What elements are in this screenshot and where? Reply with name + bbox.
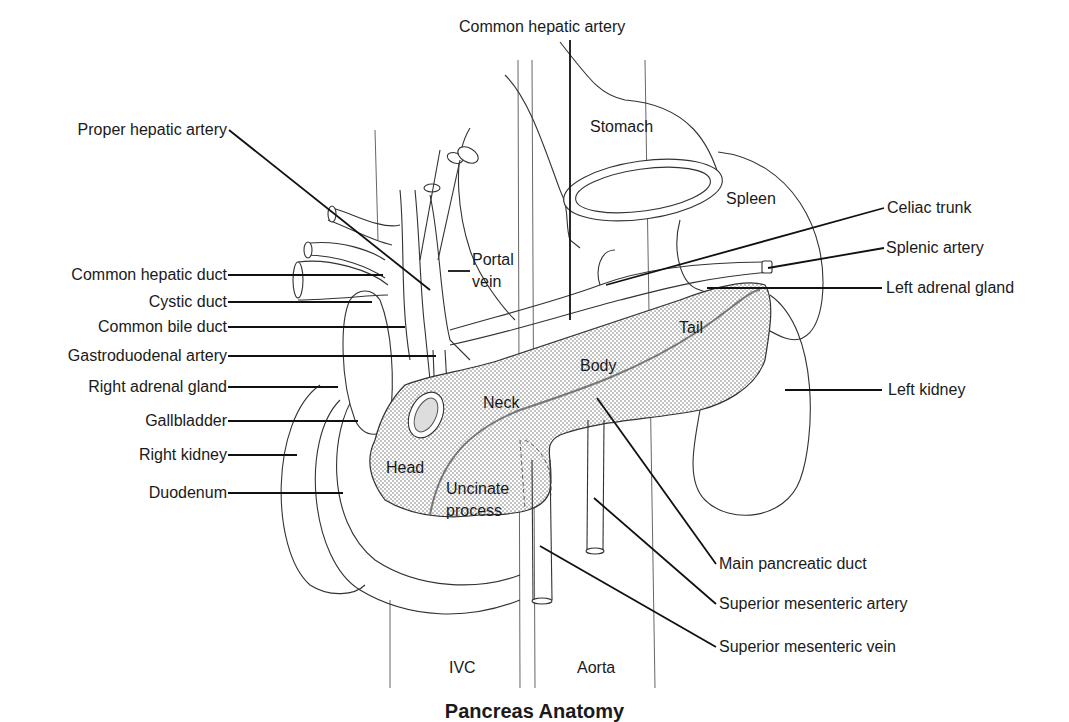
- label-right-kidney: Right kidney: [139, 446, 227, 464]
- label-uncinate-1: Uncinate: [446, 479, 509, 498]
- label-uncinate-2: process: [446, 501, 502, 520]
- label-common-bile-duct: Common bile duct: [98, 318, 227, 336]
- pancreas-anatomy-diagram: Common hepatic artery Proper hepatic art…: [0, 0, 1069, 722]
- label-portal-vein-2: vein: [472, 272, 501, 291]
- label-cystic-duct: Cystic duct: [149, 293, 227, 311]
- label-tail: Tail: [679, 318, 703, 337]
- label-splenic-artery: Splenic artery: [886, 239, 984, 257]
- label-superior-mesenteric-artery: Superior mesenteric artery: [719, 595, 908, 613]
- label-portal-vein-1: Portal: [472, 250, 514, 269]
- label-superior-mesenteric-vein: Superior mesenteric vein: [719, 638, 896, 656]
- right-kidney: [281, 385, 365, 594]
- label-left-kidney: Left kidney: [888, 381, 965, 399]
- label-main-pancreatic-duct: Main pancreatic duct: [719, 555, 867, 573]
- label-duodenum: Duodenum: [149, 484, 227, 502]
- label-stomach: Stomach: [590, 117, 653, 136]
- label-gastroduodenal-artery: Gastroduodenal artery: [68, 347, 227, 365]
- label-common-hepatic-artery: Common hepatic artery: [459, 18, 625, 36]
- label-neck: Neck: [483, 393, 519, 412]
- label-ivc: IVC: [449, 658, 476, 677]
- stomach: [505, 42, 726, 248]
- label-gallbladder: Gallbladder: [145, 412, 227, 430]
- label-body: Body: [580, 356, 616, 375]
- label-head: Head: [386, 458, 424, 477]
- label-left-adrenal-gland: Left adrenal gland: [886, 279, 1014, 297]
- label-spleen: Spleen: [726, 189, 776, 208]
- label-common-hepatic-duct: Common hepatic duct: [71, 266, 227, 284]
- label-right-adrenal-gland: Right adrenal gland: [88, 378, 227, 396]
- label-celiac-trunk: Celiac trunk: [887, 199, 971, 217]
- label-aorta: Aorta: [577, 658, 615, 677]
- figure-caption: Pancreas Anatomy: [0, 700, 1069, 722]
- label-proper-hepatic-artery: Proper hepatic artery: [78, 121, 227, 139]
